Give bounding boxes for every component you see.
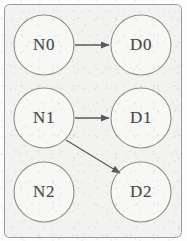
node-label-n0: N0 <box>33 35 55 55</box>
node-label-d0: D0 <box>130 35 152 55</box>
diagram-canvas: N0 D0 N1 D1 N2 D2 <box>0 0 187 241</box>
node-label-n1: N1 <box>33 108 55 128</box>
node-label-n2: N2 <box>33 182 55 202</box>
diagram-svg <box>0 0 187 241</box>
node-label-d2: D2 <box>130 182 152 202</box>
node-label-d1: D1 <box>130 108 152 128</box>
